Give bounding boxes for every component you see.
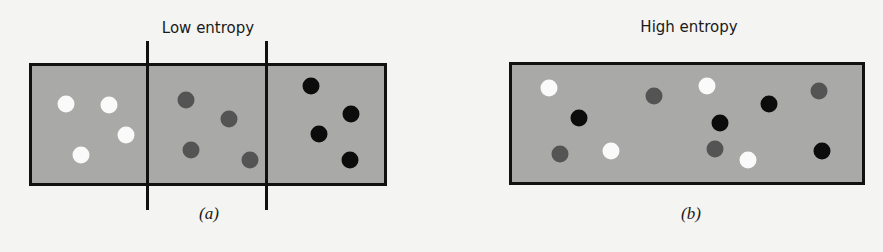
gray-particle bbox=[242, 152, 259, 169]
white-particle bbox=[740, 152, 757, 169]
black-particle bbox=[712, 115, 729, 132]
white-particle bbox=[699, 78, 716, 95]
panel-a-container bbox=[29, 63, 387, 186]
black-particle bbox=[571, 110, 588, 127]
gray-particle bbox=[646, 88, 663, 105]
white-particle bbox=[541, 80, 558, 97]
panel-b-title: High entropy bbox=[640, 18, 737, 36]
panel-a-caption: (a) bbox=[199, 204, 219, 224]
black-particle bbox=[303, 78, 320, 95]
gray-particle bbox=[552, 146, 569, 163]
gray-particle bbox=[183, 142, 200, 159]
black-particle bbox=[814, 143, 831, 160]
white-particle bbox=[101, 97, 118, 114]
gray-particle bbox=[811, 83, 828, 100]
black-particle bbox=[761, 96, 778, 113]
white-particle bbox=[118, 127, 135, 144]
panel-b-container bbox=[509, 62, 865, 185]
black-particle bbox=[343, 106, 360, 123]
white-particle bbox=[603, 143, 620, 160]
white-particle bbox=[73, 147, 90, 164]
white-particle bbox=[58, 96, 75, 113]
black-particle bbox=[342, 152, 359, 169]
panel-b-caption: (b) bbox=[681, 204, 701, 224]
panel-a-partition-right bbox=[265, 41, 268, 210]
gray-particle bbox=[707, 141, 724, 158]
panel-a-partition-left bbox=[146, 41, 149, 210]
gray-particle bbox=[178, 92, 195, 109]
black-particle bbox=[311, 126, 328, 143]
gray-particle bbox=[221, 111, 238, 128]
panel-a-title: Low entropy bbox=[162, 19, 254, 37]
